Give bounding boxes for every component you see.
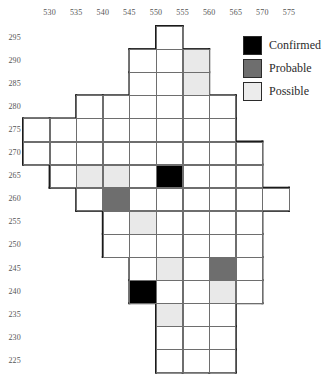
- legend: ConfirmedProbablePossible: [243, 34, 331, 103]
- grid-cell: [156, 349, 183, 373]
- grid-cell: [129, 280, 156, 304]
- grid-cell: [209, 188, 236, 212]
- legend-swatch-confirmed: [243, 36, 262, 55]
- legend-label: Possible: [269, 85, 309, 97]
- grid-cell: [103, 211, 130, 235]
- legend-swatch-possible: [243, 82, 262, 101]
- grid-cell: [76, 95, 103, 119]
- grid-cell: [183, 118, 210, 142]
- grid-cell: [156, 49, 183, 73]
- grid-cell: [129, 72, 156, 96]
- grid-cell: [156, 234, 183, 258]
- grid-cell: [23, 142, 50, 166]
- heatmap-figure: 530535540545550555560565570575 295290285…: [0, 0, 333, 385]
- grid-cell: [156, 26, 183, 50]
- grid-cell: [156, 95, 183, 119]
- grid-cell: [209, 280, 236, 304]
- grid-cell: [183, 257, 210, 281]
- grid-cell: [209, 349, 236, 373]
- grid-cell: [183, 49, 210, 73]
- grid-cell: [103, 188, 130, 212]
- grid-cell: [209, 118, 236, 142]
- grid-cell: [103, 95, 130, 119]
- grid-cell: [50, 165, 77, 189]
- grid-cell: [103, 165, 130, 189]
- grid-cell: [103, 234, 130, 258]
- grid-cell: [183, 188, 210, 212]
- grid-cell: [209, 257, 236, 281]
- grid-cell: [156, 118, 183, 142]
- grid-cell: [156, 211, 183, 235]
- grid-cell: [183, 142, 210, 166]
- grid-cell: [183, 349, 210, 373]
- grid-cell: [129, 188, 156, 212]
- grid-cell: [209, 326, 236, 350]
- grid-cell: [156, 303, 183, 327]
- grid-cell: [209, 95, 236, 119]
- grid-cell: [183, 303, 210, 327]
- grid-cell: [156, 326, 183, 350]
- grid-cell: [156, 72, 183, 96]
- grid-cell: [183, 95, 210, 119]
- grid-cell: [76, 118, 103, 142]
- grid-cell: [183, 326, 210, 350]
- grid-cell: [209, 165, 236, 189]
- grid-cell: [183, 211, 210, 235]
- grid-cell: [156, 280, 183, 304]
- grid-cell: [209, 303, 236, 327]
- grid-cell: [129, 49, 156, 73]
- grid-cell: [209, 142, 236, 166]
- grid-cell: [129, 211, 156, 235]
- grid-cell: [236, 234, 263, 258]
- grid-cell: [236, 165, 263, 189]
- grid-cell: [103, 118, 130, 142]
- grid-cell: [156, 165, 183, 189]
- grid-cell: [183, 280, 210, 304]
- grid-cell: [156, 257, 183, 281]
- grid-cell: [236, 280, 263, 304]
- legend-swatch-probable: [243, 59, 262, 78]
- grid-cell: [50, 142, 77, 166]
- grid-cell: [183, 72, 210, 96]
- legend-item: Probable: [243, 57, 331, 79]
- grid-cell: [156, 142, 183, 166]
- grid-cell: [236, 188, 263, 212]
- grid-cell: [76, 142, 103, 166]
- grid-cell: [236, 142, 263, 166]
- grid-cell: [183, 165, 210, 189]
- grid-cell: [50, 118, 77, 142]
- grid-cell: [183, 234, 210, 258]
- grid-cell: [236, 211, 263, 235]
- legend-item: Possible: [243, 80, 331, 102]
- legend-label: Confirmed: [269, 39, 321, 51]
- legend-label: Probable: [269, 62, 312, 74]
- grid-cell: [23, 118, 50, 142]
- grid-cell: [236, 257, 263, 281]
- grid-cell: [209, 211, 236, 235]
- grid-cell: [129, 142, 156, 166]
- grid-cell: [129, 257, 156, 281]
- grid-cell: [129, 234, 156, 258]
- grid-cell: [156, 188, 183, 212]
- grid-cell: [76, 188, 103, 212]
- grid-cell: [262, 188, 289, 212]
- grid-cell: [129, 95, 156, 119]
- grid-cell: [129, 118, 156, 142]
- grid-cell: [103, 142, 130, 166]
- grid-cell: [209, 234, 236, 258]
- grid-cell: [76, 165, 103, 189]
- legend-item: Confirmed: [243, 34, 331, 56]
- grid-cell: [129, 165, 156, 189]
